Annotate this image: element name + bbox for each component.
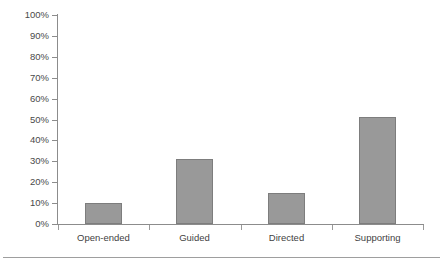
y-tick-label: 90%	[30, 31, 49, 41]
y-tick-label: 20%	[30, 177, 49, 187]
x-separator-tick	[423, 225, 424, 230]
y-tick-mark	[52, 99, 58, 100]
plot-area: 0% 10% 20% 30% 40% 50% 60% 70%	[58, 15, 423, 224]
y-tick-label: 60%	[30, 94, 49, 104]
x-separator-tick	[332, 225, 333, 230]
y-tick-label: 40%	[30, 136, 49, 146]
x-separator-tick	[58, 225, 59, 230]
bar-open-ended	[85, 203, 122, 224]
y-tick-label: 70%	[30, 73, 49, 83]
y-tick-label: 80%	[30, 52, 49, 62]
y-tick-label: 50%	[30, 115, 49, 125]
y-tick-label: 10%	[30, 198, 49, 208]
y-tick-mark	[52, 36, 58, 37]
y-tick-mark	[52, 120, 58, 121]
x-category-label-guided: Guided	[149, 233, 240, 243]
x-category-label-supporting: Supporting	[332, 233, 423, 243]
y-tick-label: 100%	[25, 10, 49, 20]
y-tick-mark	[52, 15, 58, 16]
bar-supporting	[359, 117, 396, 224]
y-tick-mark	[52, 57, 58, 58]
x-category-label-open-ended: Open-ended	[58, 233, 149, 243]
x-separator-tick	[241, 225, 242, 230]
y-tick-label: 30%	[30, 157, 49, 167]
y-tick-mark	[52, 182, 58, 183]
y-tick-mark	[52, 140, 58, 141]
y-tick-mark	[52, 161, 58, 162]
y-tick-mark	[52, 203, 58, 204]
x-separator-tick	[149, 225, 150, 230]
footer-divider	[3, 257, 440, 258]
bar-guided	[176, 159, 213, 224]
x-category-label-directed: Directed	[241, 233, 332, 243]
bar-directed	[268, 193, 305, 224]
y-tick-label: 0%	[35, 219, 49, 229]
y-tick-mark	[52, 78, 58, 79]
bar-chart-figure: 0% 10% 20% 30% 40% 50% 60% 70%	[0, 0, 443, 267]
